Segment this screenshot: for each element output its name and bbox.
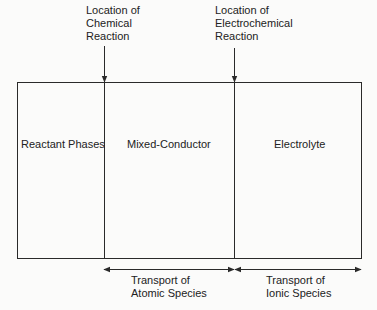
region-label-reactant-phases: Reactant Phases <box>21 138 105 151</box>
pointer-label-electrochemical: Location of Electrochemical Reaction <box>215 4 293 43</box>
region-label-electrolyte: Electrolyte <box>274 138 325 151</box>
diagram-lines <box>0 0 377 310</box>
outer-box <box>18 83 362 259</box>
region-label-mixed-conductor: Mixed-Conductor <box>127 138 211 151</box>
transport-label-atomic: Transport of Atomic Species <box>131 274 207 300</box>
diagram: Location of Chemical Reaction Location o… <box>0 0 377 310</box>
pointer-label-chemical: Location of Chemical Reaction <box>86 4 140 43</box>
transport-label-ionic: Transport of Ionic Species <box>266 274 331 300</box>
